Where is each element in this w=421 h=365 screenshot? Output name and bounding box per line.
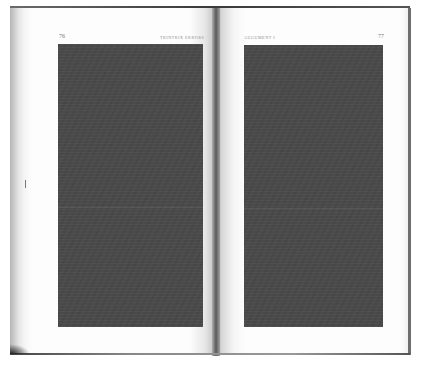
scan-line bbox=[244, 208, 383, 209]
left-page-number: 76 bbox=[59, 33, 65, 40]
page-edge-shadow bbox=[10, 8, 24, 353]
book-top-edge bbox=[10, 6, 410, 8]
book-bottom-edge bbox=[10, 353, 410, 355]
corner-shadow bbox=[10, 344, 30, 354]
right-page-number: 77 bbox=[378, 33, 384, 40]
right-running-head: AUGUMENT I bbox=[244, 35, 275, 40]
left-running-head: TRINTRIX ERRORS bbox=[160, 35, 204, 40]
left-redacted-text-block bbox=[58, 44, 203, 327]
book-scan: 76 TRINTRIX ERRORS AUGUMENT I 77 bbox=[0, 0, 421, 365]
scan-line bbox=[58, 207, 203, 208]
right-redacted-text-block bbox=[244, 45, 383, 327]
right-book-edge bbox=[408, 8, 411, 355]
margin-mark bbox=[25, 180, 26, 188]
book-gutter bbox=[212, 6, 220, 356]
